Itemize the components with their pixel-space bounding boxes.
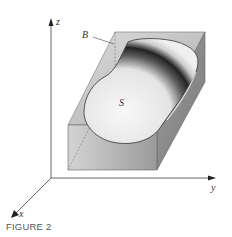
solid-label: S [119, 98, 124, 108]
z-axis-arrow-icon [49, 18, 54, 26]
figure-caption: FIGURE 2 [6, 221, 51, 232]
solid-s [84, 39, 198, 144]
diagram-canvas [0, 0, 232, 237]
y-axis-label: y [211, 183, 215, 193]
y-axis-arrow-icon [208, 176, 216, 181]
box-label: B [82, 30, 88, 40]
solid-s-surface [84, 39, 198, 144]
x-axis-label: x [19, 209, 23, 219]
z-axis-label: z [56, 17, 60, 27]
